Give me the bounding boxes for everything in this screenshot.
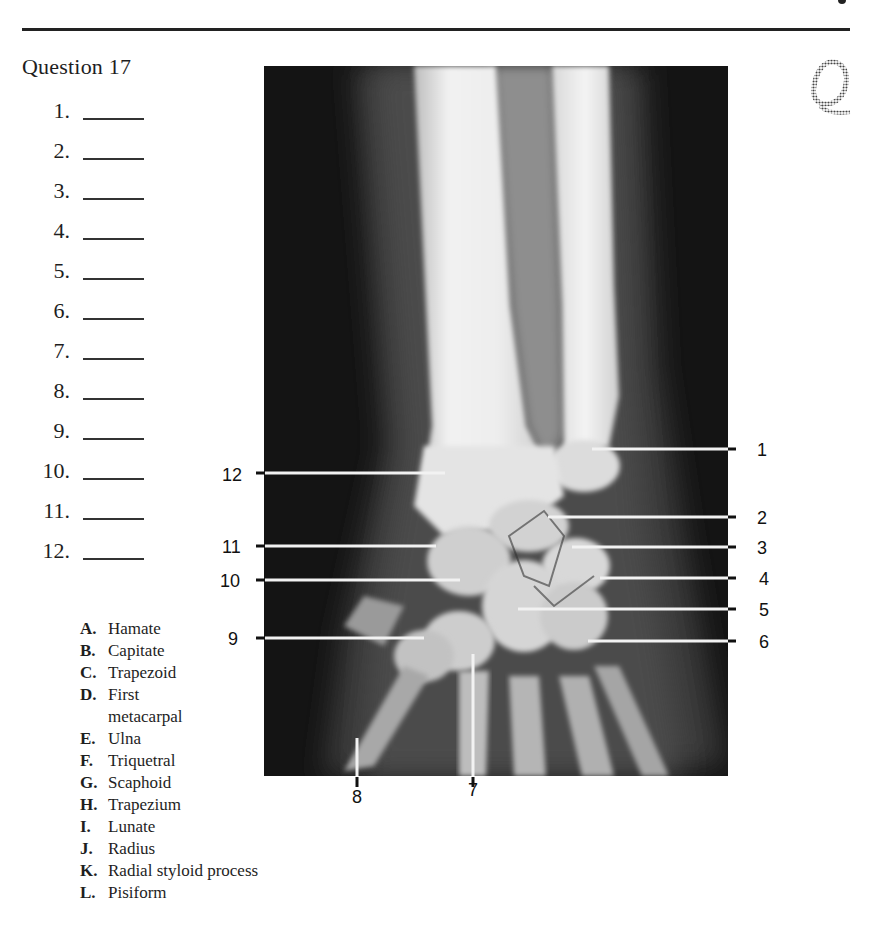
answer-row: 2. [0, 138, 180, 178]
option-letter: F. [80, 750, 108, 772]
figure-label-11: 11 [222, 537, 241, 558]
option-text: Triquetral [108, 751, 175, 770]
option-letter: H. [80, 794, 108, 816]
option-text: Capitate [108, 641, 165, 660]
option-letter: D. [80, 684, 108, 706]
question-q-logo-icon [806, 56, 852, 118]
option-item: F.Triquetral [80, 750, 258, 772]
option-letter: J. [80, 838, 108, 860]
option-letter: I. [80, 816, 108, 838]
answer-blank-11[interactable] [83, 518, 144, 520]
option-letter: E. [80, 728, 108, 750]
answer-blank-7[interactable] [83, 358, 144, 360]
option-letter: C. [80, 662, 108, 684]
option-letter: L. [80, 882, 108, 904]
option-item: J.Radius [80, 838, 258, 860]
answer-number: 12. [43, 538, 71, 564]
answer-row: 12. [0, 538, 180, 578]
option-item: E.Ulna [80, 728, 258, 750]
option-letter: K. [80, 860, 108, 882]
answer-row: 7. [0, 338, 180, 378]
answer-number: 7. [54, 338, 71, 364]
answer-row: 11. [0, 498, 180, 538]
answer-number: 8. [54, 378, 71, 404]
figure-label-9: 9 [228, 629, 238, 650]
option-text: Ulna [108, 729, 141, 748]
answer-number: 6. [54, 298, 71, 324]
answer-blank-1[interactable] [83, 118, 144, 120]
option-text: Scaphoid [108, 773, 171, 792]
answer-blank-4[interactable] [83, 238, 144, 240]
answer-number: 3. [54, 178, 71, 204]
option-text: Lunate [108, 817, 155, 836]
answer-blank-12[interactable] [83, 558, 144, 560]
answer-number: 11. [43, 498, 70, 524]
figure-label-7: 7 [468, 780, 478, 801]
figure-label-1: 1 [757, 440, 767, 461]
option-text: Radius [108, 839, 155, 858]
answer-row: 1. [0, 98, 180, 138]
answer-blank-5[interactable] [83, 278, 144, 280]
answer-row: 8. [0, 378, 180, 418]
figure-label-8: 8 [352, 787, 362, 808]
answer-row: 9. [0, 418, 180, 458]
option-text: Hamate [108, 619, 161, 638]
answer-number: 1. [54, 98, 71, 124]
option-item: G.Scaphoid [80, 772, 258, 794]
option-text: First [108, 685, 139, 704]
option-item: I.Lunate [80, 816, 258, 838]
option-text: Pisiform [108, 883, 167, 902]
option-letter: A. [80, 618, 108, 640]
answer-row: 3. [0, 178, 180, 218]
figure-label-10: 10 [220, 571, 240, 592]
wrist-xray-image [264, 66, 728, 776]
option-text: Trapezoid [108, 663, 176, 682]
figure-label-12: 12 [222, 465, 242, 486]
figure-label-5: 5 [759, 600, 769, 621]
option-item: H.Trapezium [80, 794, 258, 816]
question-title: Question 17 [22, 54, 131, 80]
answer-blank-10[interactable] [83, 478, 144, 480]
option-letter: B. [80, 640, 108, 662]
figure-label-4: 4 [759, 569, 769, 590]
option-item: C.Trapezoid [80, 662, 258, 684]
figure-label-2: 2 [757, 508, 767, 529]
option-continuation: metacarpal [80, 706, 258, 728]
answer-blank-3[interactable] [83, 198, 144, 200]
option-text: Radial styloid process [108, 861, 258, 880]
answer-row: 5. [0, 258, 180, 298]
answer-number: 9. [54, 418, 71, 444]
answer-blank-8[interactable] [83, 398, 144, 400]
page-header-glyph-fragment [838, 0, 846, 4]
option-item: L.Pisiform [80, 882, 258, 904]
answer-number: 10. [43, 458, 71, 484]
answer-number: 5. [54, 258, 71, 284]
answer-number: 2. [54, 138, 71, 164]
answer-blank-6[interactable] [83, 318, 144, 320]
answer-number: 4. [54, 218, 71, 244]
figure-label-3: 3 [757, 538, 767, 559]
option-item: D.First [80, 684, 258, 706]
option-list: A.Hamate B.Capitate C.Trapezoid D.First … [80, 618, 258, 904]
figure-label-6: 6 [759, 632, 769, 653]
answer-blank-9[interactable] [83, 438, 144, 440]
answer-row: 10. [0, 458, 180, 498]
option-item: K.Radial styloid process [80, 860, 258, 882]
answer-row: 6. [0, 298, 180, 338]
option-letter: G. [80, 772, 108, 794]
answer-blank-2[interactable] [83, 158, 144, 160]
page-top-rule [22, 28, 850, 31]
answer-row: 4. [0, 218, 180, 258]
option-text: Trapezium [108, 795, 181, 814]
